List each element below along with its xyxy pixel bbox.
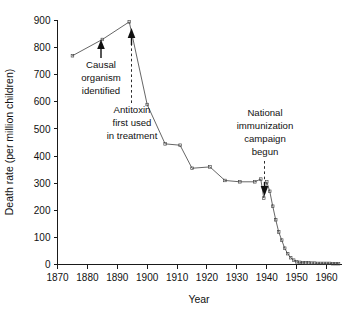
x-tick-label: 1880 <box>76 272 99 283</box>
y-tick-label: 200 <box>34 205 51 216</box>
y-tick-label: 400 <box>34 151 51 162</box>
series-markers-diphtheria <box>71 21 340 265</box>
annotation-line: organism <box>81 72 120 83</box>
chart-figure: 0100200300400500600700800900 18701880189… <box>0 0 347 312</box>
y-tick-label: 700 <box>34 69 51 80</box>
x-tick-label: 1920 <box>196 272 219 283</box>
x-tick-label: 1940 <box>256 272 279 283</box>
annotations-group: Causal organism identified Antitoxin fir… <box>81 28 293 196</box>
x-axis-title: Year <box>188 293 210 305</box>
annotation-line: Antitoxin <box>114 104 151 115</box>
annotation-arrow-head <box>128 28 136 38</box>
annotation-line: identified <box>82 85 120 96</box>
x-tick-label: 1900 <box>136 272 159 283</box>
line-chart-canvas: 0100200300400500600700800900 18701880189… <box>0 0 347 312</box>
data-series-group <box>71 21 340 265</box>
annotation-line: begun <box>252 146 279 157</box>
x-tick-label: 1890 <box>106 272 129 283</box>
x-tick-label: 1910 <box>166 272 189 283</box>
annotation-arrow-head <box>261 186 269 196</box>
x-tick-label: 1930 <box>226 272 249 283</box>
x-tick-label: 1870 <box>46 272 69 283</box>
annotation-line: in treatment <box>107 130 158 141</box>
y-tick-label: 0 <box>45 259 51 270</box>
annotation-line: National <box>247 107 282 118</box>
x-axis-ticks: 1870188018901900191019201930194019501960 <box>46 265 338 283</box>
y-tick-label: 900 <box>34 15 51 26</box>
y-tick-label: 800 <box>34 42 51 53</box>
annotation-line: campaign <box>244 133 286 144</box>
annotation-line: Causal <box>86 59 116 70</box>
axes-group <box>58 21 342 265</box>
y-axis-ticks: 0100200300400500600700800900 <box>34 15 58 270</box>
annotation-line: first used <box>113 117 152 128</box>
y-tick-label: 100 <box>34 232 51 243</box>
y-tick-label: 500 <box>34 124 51 135</box>
annotation-line: immunization <box>237 120 294 131</box>
y-tick-label: 600 <box>34 96 51 107</box>
y-tick-label: 300 <box>34 178 51 189</box>
x-tick-label: 1950 <box>286 272 309 283</box>
annotation-national-immunization: National immunization campaign begun <box>237 107 294 196</box>
x-tick-label: 1960 <box>315 272 338 283</box>
y-axis-title: Death rate (per million children) <box>3 69 15 215</box>
